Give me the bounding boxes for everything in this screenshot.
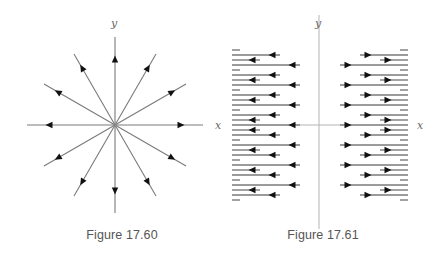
right-arrowhead-icon — [345, 142, 352, 148]
axes — [300, 15, 340, 229]
left-arrowhead-icon — [289, 82, 296, 88]
right-arrowhead-icon — [385, 187, 392, 193]
right-arrowhead-icon — [365, 152, 372, 158]
right-arrowhead-icon — [385, 57, 392, 63]
figure-page: x y x y Figure 17.60 Figure 17.61 — [0, 0, 440, 262]
right-arrowhead-icon — [365, 132, 372, 138]
left-arrowhead-icon — [289, 182, 296, 188]
left-arrowhead-icon — [289, 162, 296, 168]
right-arrowhead-icon — [365, 172, 372, 178]
left-arrowhead-icon — [269, 112, 276, 118]
figure-17-61-plot: x y — [0, 0, 440, 262]
left-arrowhead-icon — [269, 172, 276, 178]
right-flow-lines — [340, 50, 408, 200]
right-arrowhead-icon — [385, 147, 392, 153]
right-arrowhead-icon — [385, 167, 392, 173]
figure-17-61-caption: Figure 17.61 — [287, 228, 358, 242]
left-arrowhead-icon — [269, 192, 276, 198]
left-arrowhead-icon — [249, 77, 256, 83]
left-arrowhead-icon — [269, 92, 276, 98]
right-arrowhead-icon — [345, 62, 352, 68]
left-arrowhead-icon — [249, 57, 256, 63]
right-arrowhead-icon — [345, 162, 352, 168]
right-arrowhead-icon — [345, 82, 352, 88]
left-arrowhead-icon — [269, 132, 276, 138]
left-arrowhead-icon — [249, 117, 256, 123]
x-axis-label: x — [417, 119, 424, 132]
y-axis-label: y — [314, 17, 322, 30]
left-arrowhead-icon — [249, 187, 256, 193]
right-arrowhead-icon — [385, 97, 392, 103]
figure-17-60-caption: Figure 17.60 — [86, 228, 157, 242]
left-arrowhead-icon — [249, 97, 256, 103]
left-arrowhead-icon — [269, 52, 276, 58]
left-arrowhead-icon — [289, 122, 296, 128]
right-arrowhead-icon — [345, 102, 352, 108]
left-arrowhead-icon — [269, 72, 276, 78]
left-arrowhead-icon — [249, 147, 256, 153]
left-arrowhead-icon — [249, 167, 256, 173]
right-arrowhead-icon — [365, 192, 372, 198]
right-arrowhead-icon — [385, 127, 392, 133]
right-arrowhead-icon — [365, 92, 372, 98]
left-arrowhead-icon — [289, 142, 296, 148]
left-arrowhead-icon — [269, 152, 276, 158]
left-arrowhead-icon — [289, 102, 296, 108]
right-arrowhead-icon — [385, 77, 392, 83]
right-arrowhead-icon — [345, 122, 352, 128]
left-arrowhead-icon — [289, 62, 296, 68]
left-arrowhead-icon — [249, 127, 256, 133]
right-arrowhead-icon — [345, 182, 352, 188]
right-arrowhead-icon — [365, 72, 372, 78]
right-arrowhead-icon — [385, 117, 392, 123]
left-flow-lines — [232, 50, 300, 200]
right-arrowhead-icon — [365, 52, 372, 58]
right-arrowhead-icon — [365, 112, 372, 118]
